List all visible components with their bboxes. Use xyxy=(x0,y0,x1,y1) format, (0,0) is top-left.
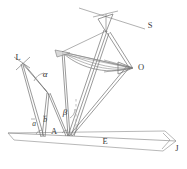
ground-horizon-line xyxy=(8,133,176,141)
geometry-figure: S O L J A a b α β E xyxy=(0,0,187,169)
diagram-root: S O L J A a b α β E xyxy=(0,0,187,169)
label-angle-beta: β xyxy=(62,107,68,117)
s-axis-group xyxy=(79,8,145,33)
label-point-o: O xyxy=(138,62,144,72)
edge-O-to-top-1 xyxy=(110,32,132,67)
label-point-s: S xyxy=(148,20,153,30)
ray-L-to-ground-outer xyxy=(21,64,41,137)
ray-ground-to-S-3 xyxy=(74,33,109,136)
edge-lensleft-to-top xyxy=(62,31,106,52)
s-triangle xyxy=(98,14,113,32)
label-plane-e: E xyxy=(102,136,107,146)
ray-ground-to-S-2 xyxy=(71,31,107,136)
angle-mark-left xyxy=(36,130,42,134)
ray-ground-to-O-1 xyxy=(69,66,127,136)
label-point-a: A xyxy=(51,126,58,136)
edge-lensleft-to-O xyxy=(62,54,131,68)
left-ray-bundle xyxy=(14,57,68,137)
ray-ground-to-O-2 xyxy=(72,68,129,136)
s-axis-line xyxy=(79,8,145,29)
label-point-j: J xyxy=(175,143,179,153)
ground-plane-E xyxy=(8,131,176,151)
label-point-l: L xyxy=(15,52,20,62)
ray-ground-to-S-1 xyxy=(68,30,104,136)
label-segment-b: b xyxy=(43,115,47,124)
label-segment-a: a xyxy=(32,119,36,128)
label-angle-alpha: α xyxy=(43,69,48,79)
